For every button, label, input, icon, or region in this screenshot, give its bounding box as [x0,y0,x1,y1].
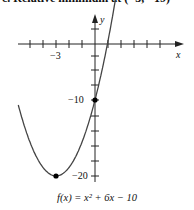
y-axis-label: y [100,14,104,25]
axes [18,14,184,182]
function-plot [0,0,194,210]
x-tick-label-neg3: −3 [50,50,61,61]
x-axis-label: x [176,49,180,60]
minimum-point [53,173,58,178]
y-intercept-point [92,97,97,102]
parabola-curve [18,0,118,176]
y-tick-label-neg20: −20 [72,170,88,181]
y-tick-label-neg10: −10 [68,94,84,105]
function-caption: f(x) = x² + 6x − 10 [0,192,194,203]
marked-points [53,97,97,178]
